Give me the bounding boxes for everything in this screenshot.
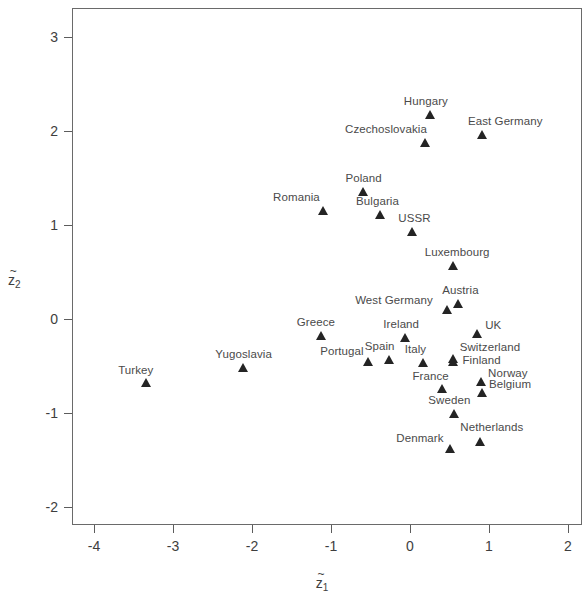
data-point-label: Portugal <box>320 346 364 358</box>
triangle-up-icon <box>418 358 428 367</box>
triangle-up-icon <box>384 355 394 364</box>
data-point-label: West Germany <box>355 295 433 307</box>
y-axis-tick-label: 1 <box>50 217 58 233</box>
x-axis-tick-label: 1 <box>485 538 493 554</box>
y-axis-tick-label: -2 <box>46 499 58 515</box>
data-point-label: Italy <box>405 344 427 356</box>
data-point-label: Romania <box>273 192 320 204</box>
triangle-up-icon <box>453 299 463 308</box>
data-point-label: Turkey <box>118 365 153 377</box>
y-axis-tick <box>64 413 72 414</box>
x-axis-tick <box>252 525 253 533</box>
x-axis-tick-label: -2 <box>246 538 258 554</box>
triangle-up-icon <box>475 437 485 446</box>
y-axis-title-tilde: ~ <box>8 265 19 277</box>
data-point-label: Spain <box>365 341 395 353</box>
x-axis-tick <box>489 525 490 533</box>
triangle-up-icon <box>448 357 458 366</box>
triangle-up-icon <box>318 206 328 215</box>
data-point-label: Luxembourg <box>425 247 490 259</box>
triangle-up-icon <box>477 388 487 397</box>
x-axis-tick-label: -4 <box>88 538 100 554</box>
y-axis-tick-label: 3 <box>50 29 58 45</box>
data-point-label: UK <box>485 320 501 332</box>
x-axis-tick-label: -3 <box>167 538 179 554</box>
triangle-up-icon <box>400 333 410 342</box>
triangle-up-icon <box>425 110 435 119</box>
y-axis-tick <box>64 37 72 38</box>
x-axis-title-subscript: 1 <box>323 582 329 593</box>
y-axis-title-subscript: 2 <box>15 279 21 290</box>
triangle-up-icon <box>407 227 417 236</box>
x-axis-tick <box>173 525 174 533</box>
y-axis-tick <box>64 319 72 320</box>
y-axis-tick <box>64 225 72 226</box>
y-axis-tick-label: 0 <box>50 311 58 327</box>
data-point-label: Finland <box>462 355 500 367</box>
triangle-up-icon <box>238 363 248 372</box>
data-point-label: East Germany <box>468 116 543 128</box>
data-point-label: Netherlands <box>460 422 523 434</box>
data-point-label: Hungary <box>404 96 448 108</box>
triangle-up-icon <box>476 377 486 386</box>
data-point-label: Denmark <box>396 433 443 445</box>
x-axis-tick <box>568 525 569 533</box>
data-point-label: USSR <box>398 213 430 225</box>
triangle-up-icon <box>141 378 151 387</box>
triangle-up-icon <box>316 331 326 340</box>
x-axis-title: ~ z1 <box>316 575 329 591</box>
triangle-up-icon <box>363 357 373 366</box>
data-point-label: Bulgaria <box>356 196 399 208</box>
x-axis-title-tilde: ~ <box>316 568 327 580</box>
data-point-label: Sweden <box>428 395 470 407</box>
y-axis-tick-label: -1 <box>46 405 58 421</box>
data-point-label: Austria <box>442 285 479 297</box>
data-point-label: Yugoslavia <box>215 349 272 361</box>
data-point-label: Switzerland <box>460 342 521 354</box>
y-axis-title: ~ z2 <box>8 272 21 288</box>
x-axis-tick-label: 0 <box>406 538 414 554</box>
triangle-up-icon <box>442 305 452 314</box>
x-axis-tick <box>94 525 95 533</box>
triangle-up-icon <box>472 329 482 338</box>
data-point-label: Czechoslovakia <box>345 124 427 136</box>
triangle-up-icon <box>437 384 447 393</box>
x-axis-tick-label: -1 <box>325 538 337 554</box>
triangle-up-icon <box>375 210 385 219</box>
y-axis-tick <box>64 507 72 508</box>
x-axis-tick <box>410 525 411 533</box>
y-axis-tick <box>64 131 72 132</box>
y-axis-tick-label: 2 <box>50 123 58 139</box>
data-point-label: Ireland <box>383 319 419 331</box>
data-point-label: Poland <box>345 173 381 185</box>
x-axis-tick-label: 2 <box>564 538 572 554</box>
data-point-label: France <box>412 371 448 383</box>
data-point-label: Greece <box>297 317 335 329</box>
triangle-up-icon <box>449 409 459 418</box>
triangle-up-icon <box>445 444 455 453</box>
triangle-up-icon <box>448 261 458 270</box>
triangle-up-icon <box>477 130 487 139</box>
x-axis-tick <box>331 525 332 533</box>
data-point-label: Belgium <box>489 379 531 391</box>
triangle-up-icon <box>420 138 430 147</box>
